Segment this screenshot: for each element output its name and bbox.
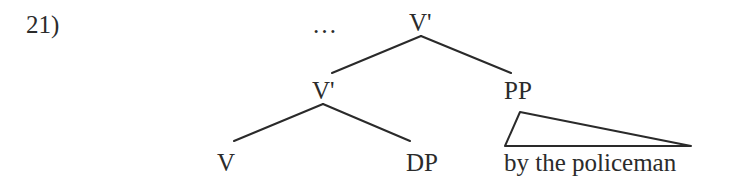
pp-triangle (505, 112, 691, 146)
node-dp: DP (406, 150, 438, 175)
node-v: V (217, 150, 235, 175)
branch-vbar-to-v (234, 104, 323, 141)
node-vbar: V' (312, 78, 335, 103)
pp-content: by the policeman (504, 150, 676, 175)
branch-root-to-vbar (332, 36, 421, 73)
branch-root-to-pp (421, 36, 511, 73)
node-root-vbar: V' (409, 10, 432, 35)
branch-vbar-to-dp (323, 104, 410, 141)
node-pp: PP (504, 78, 532, 103)
